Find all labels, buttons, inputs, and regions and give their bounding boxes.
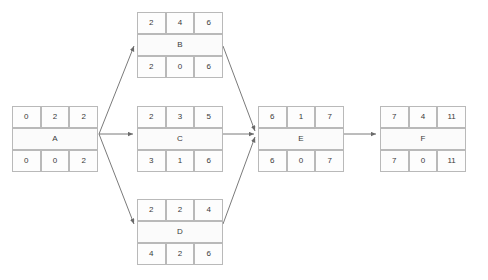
node-c-top-cell-0: 2 <box>137 106 166 128</box>
node-b-bottom-cell-1: 0 <box>166 56 195 78</box>
node-c-bottom-row: 3 1 6 <box>137 150 223 172</box>
node-c-label: C <box>137 128 223 150</box>
node-b-bottom-cell-0: 2 <box>137 56 166 78</box>
node-e-bottom-cell-0: 6 <box>258 150 287 172</box>
node-e-bottom-row: 6 0 7 <box>258 150 344 172</box>
node-f-top-cell-1: 4 <box>409 106 438 128</box>
node-d[interactable]: 2 2 4 D 4 2 6 <box>137 199 223 265</box>
node-c[interactable]: 2 3 5 C 3 1 6 <box>137 106 223 172</box>
node-d-label-row: D <box>137 221 223 243</box>
node-a-label: A <box>12 128 98 150</box>
node-c-bottom-cell-2: 6 <box>194 150 223 172</box>
node-a-top-cell-2: 2 <box>69 106 98 128</box>
node-a-bottom-cell-2: 2 <box>69 150 98 172</box>
network-diagram-canvas: 0 2 2 A 0 0 2 2 4 6 B 2 0 6 2 <box>0 0 488 280</box>
edge-a-to-d <box>99 134 134 224</box>
node-e-bottom-cell-2: 7 <box>315 150 344 172</box>
node-b-top-cell-0: 2 <box>137 12 166 34</box>
node-e-label-row: E <box>258 128 344 150</box>
node-d-top-cell-2: 4 <box>194 199 223 221</box>
node-a-top-row: 0 2 2 <box>12 106 98 128</box>
node-f-label: F <box>380 128 466 150</box>
edge-a-to-b <box>99 46 134 134</box>
node-f-top-cell-2: 11 <box>437 106 466 128</box>
node-e[interactable]: 6 1 7 E 6 0 7 <box>258 106 344 172</box>
node-c-bottom-cell-1: 1 <box>166 150 195 172</box>
node-f-top-row: 7 4 11 <box>380 106 466 128</box>
node-b-label-row: B <box>137 34 223 56</box>
node-b-bottom-cell-2: 6 <box>194 56 223 78</box>
node-a-bottom-cell-0: 0 <box>12 150 41 172</box>
node-a-label-row: A <box>12 128 98 150</box>
node-c-top-cell-1: 3 <box>166 106 195 128</box>
node-f-bottom-cell-1: 0 <box>409 150 438 172</box>
node-f-label-row: F <box>380 128 466 150</box>
node-b-top-row: 2 4 6 <box>137 12 223 34</box>
node-d-label: D <box>137 221 223 243</box>
node-f-bottom-row: 7 0 11 <box>380 150 466 172</box>
node-f-top-cell-0: 7 <box>380 106 409 128</box>
node-a-bottom-row: 0 0 2 <box>12 150 98 172</box>
node-e-bottom-cell-1: 0 <box>287 150 316 172</box>
node-b-label: B <box>137 34 223 56</box>
node-f-bottom-cell-0: 7 <box>380 150 409 172</box>
node-a-top-cell-1: 2 <box>41 106 70 128</box>
node-c-top-cell-2: 5 <box>194 106 223 128</box>
edge-d-to-e <box>223 137 255 224</box>
node-c-top-row: 2 3 5 <box>137 106 223 128</box>
node-d-bottom-row: 4 2 6 <box>137 243 223 265</box>
node-a[interactable]: 0 2 2 A 0 0 2 <box>12 106 98 172</box>
node-b[interactable]: 2 4 6 B 2 0 6 <box>137 12 223 78</box>
node-d-top-row: 2 2 4 <box>137 199 223 221</box>
node-e-top-cell-0: 6 <box>258 106 287 128</box>
node-b-bottom-row: 2 0 6 <box>137 56 223 78</box>
node-d-bottom-cell-1: 2 <box>166 243 195 265</box>
node-a-top-cell-0: 0 <box>12 106 41 128</box>
node-a-bottom-cell-1: 0 <box>41 150 70 172</box>
node-b-top-cell-1: 4 <box>166 12 195 34</box>
node-d-bottom-cell-2: 6 <box>194 243 223 265</box>
node-c-label-row: C <box>137 128 223 150</box>
edge-b-to-e <box>223 46 255 131</box>
node-f[interactable]: 7 4 11 F 7 0 11 <box>380 106 466 172</box>
node-c-bottom-cell-0: 3 <box>137 150 166 172</box>
node-f-bottom-cell-2: 11 <box>437 150 466 172</box>
node-e-top-cell-1: 1 <box>287 106 316 128</box>
node-e-top-row: 6 1 7 <box>258 106 344 128</box>
node-d-top-cell-1: 2 <box>166 199 195 221</box>
node-d-bottom-cell-0: 4 <box>137 243 166 265</box>
node-e-top-cell-2: 7 <box>315 106 344 128</box>
node-b-top-cell-2: 6 <box>194 12 223 34</box>
node-e-label: E <box>258 128 344 150</box>
node-d-top-cell-0: 2 <box>137 199 166 221</box>
